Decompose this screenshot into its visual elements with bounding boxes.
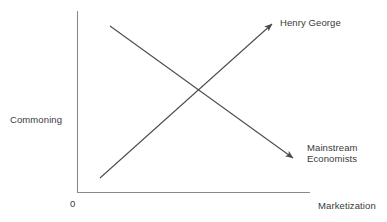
diagram-canvas: Commoning Henry George MainstreamEconomi… (0, 0, 387, 222)
diagram-svg (0, 0, 387, 222)
x-axis-label: Marketization (318, 200, 376, 211)
series-label-mainstream-economists-line1: Mainstream (307, 142, 358, 153)
falling-arrow-mainstream-economists (110, 26, 293, 158)
origin-label: 0 (70, 198, 75, 209)
series-label-mainstream-economists-line2: Economists (307, 153, 358, 164)
series-label-mainstream-economists: MainstreamEconomists (307, 142, 358, 164)
series-label-henry-george: Henry George (280, 17, 341, 28)
rising-arrow-henry-george (100, 24, 272, 178)
y-axis-label: Commoning (10, 114, 62, 125)
